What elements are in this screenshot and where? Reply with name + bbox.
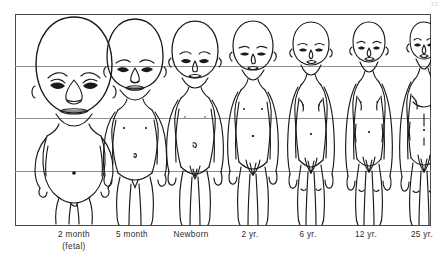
age-label-25-yr: 25 yr.: [377, 229, 444, 240]
figure-6-yr: [288, 22, 335, 225]
figure-newborn: [167, 21, 224, 225]
figure-2-month-fetal: [32, 17, 116, 224]
figure-5-month: [103, 19, 166, 225]
age-label-text: 12 yr.: [355, 230, 377, 239]
age-label-text: 2 month: [58, 230, 90, 239]
age-labels-row: 2 month (fetal) 5 month Newborn 2 yr. 6 …: [15, 229, 431, 257]
growth-proportion-figure: 25: [0, 0, 444, 258]
age-label-text: 6 yr.: [299, 230, 316, 239]
human-figures-layer: [15, 14, 431, 226]
figure-25-yr: [400, 22, 431, 225]
age-sublabel-text: (fetal): [29, 241, 119, 252]
figure-12-yr: [346, 22, 393, 225]
age-label-text: 5 month: [116, 230, 148, 239]
age-label-text: 25 yr.: [411, 230, 433, 239]
diagram-plot-area: [15, 14, 431, 226]
age-label-text: Newborn: [173, 230, 208, 239]
figure-2-yr: [228, 21, 279, 225]
page-number: 25: [431, 1, 438, 7]
age-label-text: 2 yr.: [241, 230, 258, 239]
